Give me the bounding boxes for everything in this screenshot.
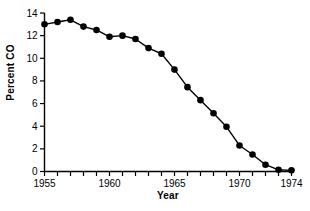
- x-tick-label: 1970: [228, 178, 251, 189]
- data-point: [184, 84, 191, 91]
- x-tick-label: 1960: [98, 178, 121, 189]
- data-point: [197, 97, 204, 104]
- data-point: [223, 123, 230, 130]
- chart-plot-area: 19551960196519701974 02468101214: [0, 0, 310, 211]
- data-point: [145, 45, 152, 52]
- data-point: [132, 36, 139, 43]
- data-point: [158, 50, 165, 57]
- data-point: [275, 167, 282, 174]
- data-point: [262, 161, 269, 168]
- data-point: [210, 110, 217, 117]
- x-tick-label: 1974: [280, 178, 303, 189]
- axis-lines: [45, 13, 292, 172]
- data-point: [171, 66, 178, 73]
- data-series-markers: [41, 16, 295, 173]
- data-point: [93, 27, 100, 34]
- data-point: [106, 33, 113, 40]
- x-axis-title: Year: [44, 190, 292, 201]
- y-tick-label: 8: [32, 75, 38, 86]
- data-point: [288, 167, 295, 174]
- y-tick-label: 2: [32, 143, 38, 154]
- data-point: [119, 32, 126, 39]
- y-tick-label: 0: [32, 166, 38, 177]
- y-tick-label: 14: [26, 8, 38, 19]
- x-axis-tick-labels: 19551960196519701974: [33, 178, 303, 189]
- data-series-line: [45, 20, 292, 171]
- x-tick-label: 1955: [33, 178, 56, 189]
- y-tick-label: 6: [32, 98, 38, 109]
- y-tick-label: 4: [32, 121, 38, 132]
- data-point: [249, 151, 256, 158]
- y-tick-label: 12: [26, 30, 38, 41]
- chart-figure: Percent CO 19551960196519701974 02468101…: [0, 0, 310, 211]
- data-point: [67, 16, 74, 23]
- x-tick-label: 1965: [163, 178, 186, 189]
- data-point: [80, 23, 87, 30]
- data-point: [54, 19, 61, 26]
- data-point: [41, 21, 48, 28]
- y-axis-tick-labels: 02468101214: [26, 8, 38, 178]
- data-point: [236, 142, 243, 149]
- y-tick-label: 10: [26, 53, 38, 64]
